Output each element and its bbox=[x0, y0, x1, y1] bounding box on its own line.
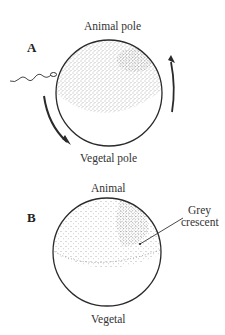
panel-b-egg bbox=[48, 190, 183, 306]
panel-label-a: A bbox=[27, 41, 36, 54]
callout-dot bbox=[139, 243, 141, 245]
pigmented-hemisphere-b bbox=[48, 190, 170, 268]
animal-label: Animal bbox=[91, 183, 126, 195]
vegetal-pole-label: Vegetal pole bbox=[80, 153, 137, 165]
animal-pole-label: Animal pole bbox=[84, 21, 141, 33]
grey-crescent-label-line1: Grey bbox=[188, 205, 211, 217]
pigmented-hemisphere-a bbox=[50, 30, 170, 113]
arrowhead-up-icon bbox=[168, 55, 175, 63]
arrowhead-down-icon bbox=[62, 135, 71, 145]
rotation-arrow-up bbox=[171, 62, 174, 112]
vegetal-label: Vegetal bbox=[91, 314, 125, 326]
panel-label-b: B bbox=[27, 211, 36, 224]
grey-crescent-label-line2: crescent bbox=[181, 217, 219, 229]
sperm-icon bbox=[10, 73, 57, 82]
